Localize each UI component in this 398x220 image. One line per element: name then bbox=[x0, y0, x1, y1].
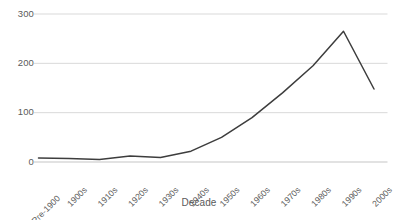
x-axis-tick-labels: Pre-19001900s1910s1920s1930s1940s1950s19… bbox=[0, 0, 398, 220]
line-chart: 0100200300 Pre-19001900s1910s1920s1930s1… bbox=[0, 0, 398, 220]
x-axis-title: Decade bbox=[0, 197, 398, 208]
